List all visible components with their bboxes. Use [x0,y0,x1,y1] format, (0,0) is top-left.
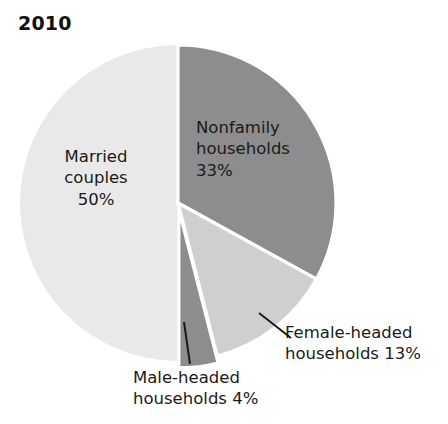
slice-label-nonfamily-households: Nonfamily households 33% [196,117,324,181]
slice-label-female-headed-households: Female-headed households 13% [285,322,445,365]
pie-chart-figure: 2010 Married couples 50% Nonfamily house… [0,0,448,424]
slice-label-male-headed-households: Male-headed households 4% [133,367,308,410]
slice-label-married-couples: Married couples 50% [38,146,154,210]
